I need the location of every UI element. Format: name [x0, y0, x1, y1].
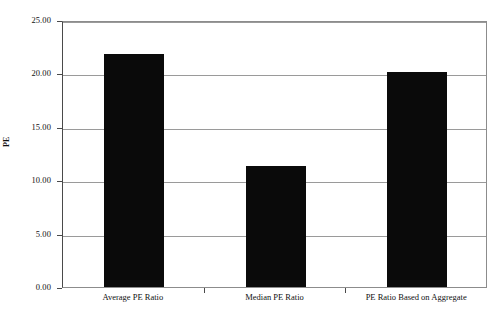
- y-axis-tick-label: 15.00: [31, 123, 51, 132]
- y-axis-tick-label: 0.00: [36, 283, 51, 292]
- y-axis-tick-label: 25.00: [31, 16, 51, 25]
- bar-chart: PE 0.005.0010.0015.0020.0025.00 Average …: [0, 0, 500, 315]
- y-axis-tick: [57, 288, 62, 289]
- x-axis-category-label: Median PE Ratio: [204, 292, 346, 302]
- gridline: [63, 22, 486, 23]
- bar: [104, 54, 164, 287]
- bar: [246, 166, 306, 287]
- y-axis-tick-label: 5.00: [36, 230, 51, 239]
- plot-area: [62, 21, 487, 288]
- y-axis-tick-label: 10.00: [31, 176, 51, 185]
- y-axis-title: PE: [2, 137, 11, 147]
- x-axis-category-label: Average PE Ratio: [62, 292, 204, 302]
- y-axis-tick-label: 20.00: [31, 69, 51, 78]
- x-axis-category-label: PE Ratio Based on Aggregate: [345, 292, 487, 302]
- bar: [387, 72, 447, 287]
- x-axis-tick: [204, 288, 205, 293]
- x-axis-tick: [345, 288, 346, 293]
